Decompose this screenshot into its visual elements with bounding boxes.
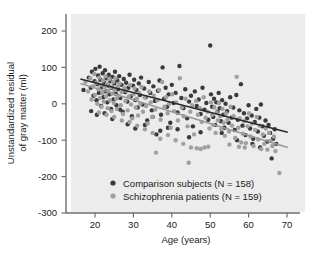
data-point — [95, 102, 99, 106]
data-point — [127, 120, 131, 124]
y-axis-title-line1: Unstandardized residual — [5, 62, 16, 164]
data-point — [165, 111, 169, 115]
data-point — [109, 109, 113, 113]
data-point — [117, 81, 121, 85]
data-point — [124, 80, 128, 84]
data-point — [185, 124, 189, 128]
data-point — [206, 145, 210, 149]
data-point — [208, 43, 212, 47]
data-point — [115, 107, 119, 111]
data-point — [209, 100, 213, 104]
data-point — [97, 64, 101, 68]
data-point — [136, 113, 140, 117]
data-point — [93, 67, 97, 71]
data-point — [234, 93, 238, 97]
data-point — [179, 96, 183, 100]
data-point — [178, 76, 182, 80]
data-point — [277, 171, 281, 175]
data-point — [240, 123, 244, 127]
chart-canvas: 2001000-100-200-300 203040506070 Age (ye… — [0, 0, 320, 259]
data-point — [204, 101, 208, 105]
data-point — [259, 147, 263, 151]
data-point — [187, 161, 191, 165]
data-point — [166, 133, 170, 137]
data-point — [265, 147, 269, 151]
data-point — [191, 124, 195, 128]
y-tick-label: 0 — [52, 98, 57, 109]
data-point — [263, 118, 267, 122]
data-point — [261, 132, 265, 136]
data-point — [198, 130, 202, 134]
data-point — [141, 110, 145, 114]
data-point — [104, 94, 108, 98]
data-point — [237, 108, 241, 112]
data-point — [139, 75, 143, 79]
data-point — [125, 108, 129, 112]
data-point — [147, 89, 151, 93]
data-point — [230, 123, 234, 127]
data-point — [93, 93, 97, 97]
y-axis-ticks: 2001000-100-200-300 — [38, 25, 66, 218]
data-point — [247, 111, 251, 115]
data-point — [212, 105, 216, 109]
data-point — [187, 135, 191, 139]
data-point — [170, 92, 174, 96]
data-point — [212, 97, 216, 101]
data-point — [259, 102, 263, 106]
data-point — [194, 99, 198, 103]
data-point — [150, 131, 154, 135]
data-point — [239, 140, 243, 144]
data-point — [98, 96, 102, 100]
data-point — [168, 121, 172, 125]
data-point — [129, 102, 133, 106]
data-point — [223, 134, 227, 138]
data-point — [163, 86, 167, 90]
data-point — [200, 86, 204, 90]
data-point — [254, 115, 258, 119]
data-point — [88, 76, 92, 80]
data-point — [134, 105, 138, 109]
data-point — [121, 112, 125, 116]
data-point — [213, 131, 217, 135]
data-point — [97, 110, 101, 114]
data-point — [176, 118, 180, 122]
data-point — [244, 141, 248, 145]
data-point — [170, 83, 174, 87]
data-point — [158, 118, 162, 122]
data-point — [150, 115, 154, 119]
x-axis-title: Age (years) — [161, 234, 210, 245]
data-point — [183, 97, 187, 101]
data-point — [160, 80, 164, 84]
data-point — [195, 146, 199, 150]
data-point — [143, 127, 147, 131]
data-point — [127, 72, 131, 76]
data-point — [92, 72, 96, 76]
data-point — [201, 95, 205, 99]
data-point — [262, 142, 266, 146]
x-tick-label: 70 — [282, 219, 293, 230]
data-point — [111, 80, 115, 84]
data-point — [104, 113, 108, 117]
x-tick-label: 20 — [90, 219, 101, 230]
data-point — [103, 68, 107, 72]
data-point — [130, 116, 134, 120]
data-point — [164, 95, 168, 99]
x-tick-label: 30 — [128, 219, 139, 230]
data-point — [103, 74, 107, 78]
data-point — [157, 88, 161, 92]
data-point — [251, 144, 255, 148]
data-point — [122, 77, 126, 81]
x-axis-ticks: 203040506070 — [90, 213, 293, 230]
legend-marker-schizophrenia-patients — [110, 193, 115, 198]
y-tick-label: -100 — [38, 135, 57, 146]
data-point — [102, 99, 106, 103]
legend-label-comparison-subjects: Comparison subjects (N = 158) — [123, 178, 254, 189]
data-point — [117, 74, 121, 78]
data-point — [151, 84, 155, 88]
y-tick-label: -200 — [38, 171, 57, 182]
data-point — [89, 97, 93, 101]
x-tick-label: 40 — [167, 219, 178, 230]
data-point — [189, 94, 193, 98]
data-point — [175, 127, 179, 131]
data-point — [119, 103, 123, 107]
